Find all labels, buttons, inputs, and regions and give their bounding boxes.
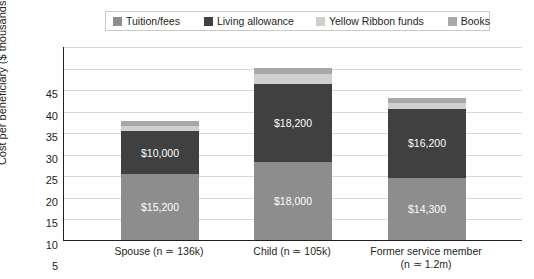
legend-label: Tuition/fees [126, 16, 180, 27]
bar-segment-living-allowance[interactable]: $16,200 [388, 109, 466, 179]
bar-group-former-service-member[interactable]: $16,200 $14,300 [388, 98, 466, 240]
chart-legend: Tuition/fees Living allowance Yellow Rib… [105, 11, 490, 31]
plot-area: $10,000 $15,200 $18,200 $18,000 [63, 47, 522, 241]
bar-segment-label: $10,000 [141, 148, 179, 159]
bar-segment-tuition-fees[interactable]: $15,200 [121, 174, 199, 240]
stacked-bar-chart: Tuition/fees Living allowance Yellow Rib… [0, 0, 534, 279]
x-axis-label-child: Child (n ≃ 105k) [217, 245, 367, 258]
bar-segment-living-allowance[interactable]: $18,200 [254, 84, 332, 162]
bars-layer: $10,000 $15,200 $18,200 $18,000 [64, 47, 522, 240]
bar-segment-yellow-ribbon-funds[interactable] [254, 74, 332, 84]
legend-swatch-icon [316, 17, 325, 26]
y-tick-label: 30 [20, 153, 58, 165]
y-tick-label: 40 [20, 110, 58, 122]
x-label-line1: Spouse (n ≃ 136k) [115, 245, 204, 257]
bar-group-child[interactable]: $18,200 $18,000 [254, 68, 332, 240]
bar-segment-label: $15,200 [141, 202, 179, 213]
legend-item-tuition-fees: Tuition/fees [113, 16, 180, 27]
bar-segment-label: $14,300 [408, 204, 446, 215]
y-tick-label: 20 [20, 196, 58, 208]
legend-label: Living allowance [217, 16, 294, 27]
x-label-line2: (n ≃ 1.2m) [351, 258, 501, 271]
y-axis-title: Cost per beneficiary ($ thousands) [0, 0, 8, 187]
legend-swatch-icon [204, 17, 213, 26]
bar-segment-label: $18,200 [274, 118, 312, 129]
y-tick-label: 10 [20, 239, 58, 251]
legend-label: Books [461, 16, 490, 27]
legend-item-living-allowance: Living allowance [204, 16, 294, 27]
legend-label: Yellow Ribbon funds [329, 16, 424, 27]
y-tick-label: 45 [20, 88, 58, 100]
legend-swatch-icon [448, 17, 457, 26]
x-axis-labels: Spouse (n ≃ 136k) Child (n ≃ 105k) Forme… [63, 245, 522, 279]
bar-segment-tuition-fees[interactable]: $18,000 [254, 162, 332, 240]
bar-segment-label: $18,000 [274, 196, 312, 207]
y-tick-label: 5 [20, 260, 58, 272]
x-label-line1: Child (n ≃ 105k) [253, 245, 330, 257]
bar-segment-label: $16,200 [408, 138, 446, 149]
bar-group-spouse[interactable]: $10,000 $15,200 [121, 121, 199, 240]
bar-segment-tuition-fees[interactable]: $14,300 [388, 178, 466, 240]
legend-item-yellow-ribbon-funds: Yellow Ribbon funds [316, 16, 424, 27]
legend-swatch-icon [113, 17, 122, 26]
x-axis-label-spouse: Spouse (n ≃ 136k) [84, 245, 234, 258]
y-tick-label: 25 [20, 174, 58, 186]
y-tick-label: 15 [20, 217, 58, 229]
y-tick-label: 35 [20, 131, 58, 143]
x-axis-label-former-service-member: Former service member (n ≃ 1.2m) [351, 245, 501, 271]
legend-item-books: Books [448, 16, 490, 27]
bar-segment-living-allowance[interactable]: $10,000 [121, 131, 199, 174]
x-label-line1: Former service member [370, 245, 481, 257]
